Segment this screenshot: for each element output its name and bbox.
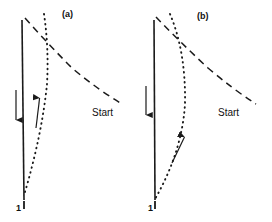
panel-b: (b) Start 1	[136, 0, 272, 222]
start-annotation-b: Start	[218, 107, 239, 118]
return-dotted-curve	[155, 14, 185, 199]
outbound-dashed-curve	[156, 17, 256, 104]
panel-b-plot	[136, 0, 272, 222]
outbound-dashed-curve	[25, 18, 122, 104]
panel-label-b: (b)	[197, 11, 209, 21]
panel-label-a: (a)	[62, 9, 73, 19]
panel-a: (a) Start 1	[0, 0, 136, 222]
panel-a-plot	[0, 0, 136, 222]
figure-root: (a) Start 1	[0, 0, 272, 222]
start-annotation-a: Start	[92, 107, 113, 118]
axis-tick-label-b: 1	[148, 203, 153, 213]
axis-line	[22, 20, 24, 200]
axis-line	[154, 20, 155, 200]
up-direction-arrow	[36, 98, 40, 128]
return-dotted-curve	[25, 14, 48, 192]
axis-tick-label-a: 1	[16, 203, 21, 213]
